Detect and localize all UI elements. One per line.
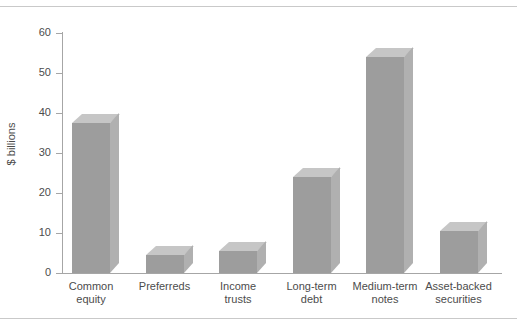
y-axis-tick: 20 bbox=[0, 193, 63, 194]
y-axis-title: $ billions bbox=[5, 114, 17, 174]
bar-side-face bbox=[331, 167, 340, 273]
x-axis-category-label-line: Asset-backed bbox=[416, 280, 502, 293]
bar-front-face bbox=[440, 231, 478, 273]
chart-figure: 0102030405060 $ billions CommonequityPre… bbox=[0, 0, 517, 329]
y-axis-tick-label: 0 bbox=[3, 267, 51, 278]
y-axis-tick-mark bbox=[56, 33, 63, 34]
x-axis-category-label-line: securities bbox=[416, 293, 502, 306]
bar bbox=[72, 123, 119, 273]
x-axis-line bbox=[62, 273, 502, 274]
x-axis-category-label-line: equity bbox=[48, 293, 134, 306]
bar-front-face bbox=[219, 251, 257, 273]
y-axis-tick: 10 bbox=[0, 233, 63, 234]
y-axis-tick-mark bbox=[56, 113, 63, 114]
y-axis-tick-mark bbox=[56, 193, 63, 194]
y-axis-tick-mark bbox=[56, 273, 63, 274]
y-axis-tick-label: 50 bbox=[3, 67, 51, 78]
bar-side-face bbox=[110, 113, 119, 273]
y-axis-tick-mark bbox=[56, 153, 63, 154]
y-axis-tick-label: 20 bbox=[3, 187, 51, 198]
bar-front-face bbox=[366, 57, 404, 273]
x-axis-category-label: Asset-backedsecurities bbox=[416, 280, 502, 306]
y-axis-tick-mark bbox=[56, 73, 63, 74]
y-axis-tick-label: 60 bbox=[3, 27, 51, 38]
y-axis-tick: 50 bbox=[0, 73, 63, 74]
bar bbox=[440, 231, 487, 273]
bar-side-face bbox=[404, 47, 413, 273]
bar bbox=[366, 57, 413, 273]
bar bbox=[293, 177, 340, 273]
bar-front-face bbox=[293, 177, 331, 273]
bar-side-face bbox=[478, 221, 487, 273]
bar-chart-plot-area: 0102030405060 $ billions CommonequityPre… bbox=[0, 0, 517, 329]
bar bbox=[219, 251, 266, 273]
y-axis-tick-label: 10 bbox=[3, 227, 51, 238]
y-axis-tick: 60 bbox=[0, 33, 63, 34]
bar bbox=[146, 255, 193, 273]
bar-front-face bbox=[72, 123, 110, 273]
bar-front-face bbox=[146, 255, 184, 273]
y-axis-tick-mark bbox=[56, 233, 63, 234]
y-axis-tick: 0 bbox=[0, 273, 63, 274]
